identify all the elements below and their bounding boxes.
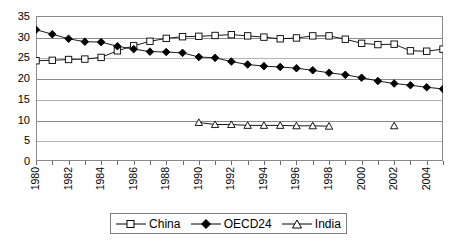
x-tick-2004 (427, 161, 428, 165)
x-tick-1993 (248, 161, 249, 165)
x-tick-1990 (199, 161, 200, 165)
x-tick-2005 (443, 161, 444, 165)
x-tick-label-1996: 1996 (290, 167, 301, 190)
gridline-15 (37, 100, 442, 101)
x-tick-label-1988: 1988 (160, 167, 171, 190)
y-tick-label-25: 25 (0, 52, 30, 63)
gridline-10 (37, 121, 442, 122)
gridline-5 (37, 141, 442, 142)
gridline-30 (37, 38, 442, 39)
x-tick-1999 (345, 161, 346, 165)
x-tick-1998 (329, 161, 330, 165)
x-tick-label-1986: 1986 (128, 167, 139, 190)
x-tick-1989 (183, 161, 184, 165)
plot-area (36, 16, 443, 161)
x-tick-2001 (378, 161, 379, 165)
x-tick-1987 (150, 161, 151, 165)
chart-figure: 05101520253035 1980198219841986198819901… (0, 0, 455, 241)
x-tick-label-1998: 1998 (323, 167, 334, 190)
y-tick-label-35: 35 (0, 11, 30, 22)
gridline-25 (37, 58, 442, 59)
x-tick-1982 (69, 161, 70, 165)
x-tick-label-1994: 1994 (258, 167, 269, 190)
x-axis-ticks (36, 161, 443, 166)
x-tick-2000 (362, 161, 363, 165)
x-axis-labels: 1980198219841986198819901992199419961998… (36, 167, 443, 211)
x-tick-1997 (313, 161, 314, 165)
legend-label-india: India (315, 218, 341, 230)
legend-item-india: India (282, 218, 341, 230)
x-tick-1994 (264, 161, 265, 165)
x-tick-label-1990: 1990 (193, 167, 204, 190)
legend-item-china: China (116, 218, 180, 230)
legend-item-oecd24: OECD24 (191, 218, 272, 230)
chart-legend: China OECD24 India (110, 213, 347, 234)
x-tick-1981 (52, 161, 53, 165)
x-tick-label-2002: 2002 (388, 167, 399, 190)
x-tick-1984 (101, 161, 102, 165)
y-tick-label-20: 20 (0, 73, 30, 84)
x-tick-label-1992: 1992 (225, 167, 236, 190)
x-tick-label-2004: 2004 (421, 167, 432, 190)
x-tick-1980 (36, 161, 37, 165)
x-tick-1983 (85, 161, 86, 165)
open-square-marker-icon (116, 218, 146, 230)
x-tick-1992 (231, 161, 232, 165)
y-tick-label-30: 30 (0, 32, 30, 43)
x-tick-1991 (215, 161, 216, 165)
x-tick-2002 (394, 161, 395, 165)
legend-label-oecd24: OECD24 (224, 218, 272, 230)
x-tick-1985 (117, 161, 118, 165)
x-tick-label-1984: 1984 (95, 167, 106, 190)
legend-label-china: China (149, 218, 180, 230)
x-tick-2003 (410, 161, 411, 165)
y-tick-label-5: 5 (0, 135, 30, 146)
y-tick-label-15: 15 (0, 94, 30, 105)
x-tick-label-1980: 1980 (30, 167, 41, 190)
gridline-20 (37, 79, 442, 80)
x-tick-1986 (134, 161, 135, 165)
x-tick-label-1982: 1982 (63, 167, 74, 190)
x-tick-1996 (296, 161, 297, 165)
x-tick-label-2000: 2000 (356, 167, 367, 190)
x-tick-1988 (166, 161, 167, 165)
x-tick-1995 (280, 161, 281, 165)
y-tick-label-10: 10 (0, 115, 30, 126)
open-triangle-marker-icon (282, 218, 312, 230)
filled-diamond-marker-icon (191, 218, 221, 230)
y-tick-label-0: 0 (0, 156, 30, 167)
